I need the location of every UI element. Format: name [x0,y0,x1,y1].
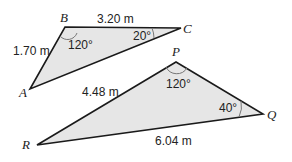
side-pr-label: 4.48 m [82,85,119,99]
side-rq-label: 6.04 m [155,134,192,148]
vertex-q: Q [267,107,277,122]
side-ab-label: 1.70 m [13,44,50,58]
vertex-r: R [21,137,30,152]
diagram-svg: B C A 3.20 m 1.70 m 120° 20° P Q R 4.48 … [0,0,292,162]
angle-q-label: 40° [219,101,237,115]
vertex-p: P [171,44,180,59]
angle-c-label: 20° [133,29,151,43]
side-bc-label: 3.20 m [97,12,134,26]
angle-b-label: 120° [68,38,93,52]
vertex-b: B [60,10,68,25]
triangles-diagram: B C A 3.20 m 1.70 m 120° 20° P Q R 4.48 … [0,0,292,162]
angle-p-label: 120° [166,77,191,91]
vertex-a: A [18,85,27,100]
vertex-c: C [183,21,192,36]
